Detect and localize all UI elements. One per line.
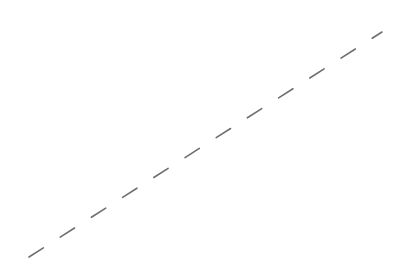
diagram-canvas [0,0,406,273]
dashed-diagonal-line [29,32,382,257]
